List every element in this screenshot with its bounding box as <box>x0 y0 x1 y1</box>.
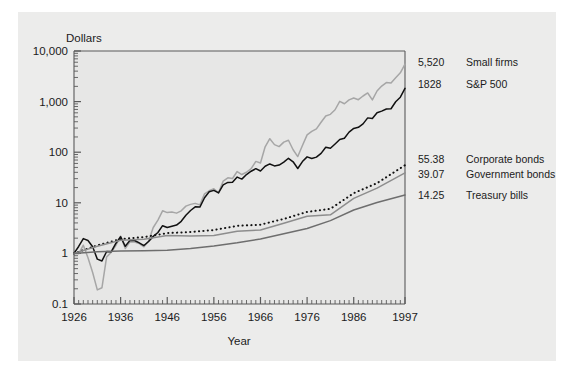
x-tick-label: 1966 <box>248 311 274 323</box>
y-tick-label: 10 <box>55 197 68 209</box>
legend: 5,520Small firms1828S&P 50055.38Corporat… <box>418 56 555 201</box>
x-axis-tick-labels: 19261936194619561966197619861997 <box>61 311 418 323</box>
x-tick-label: 1956 <box>201 311 227 323</box>
y-tick-label: 10,000 <box>33 45 68 57</box>
legend-value: 55.38 <box>418 153 444 165</box>
x-tick-label: 1946 <box>154 311 180 323</box>
chart-stage: 10,0001,0001001010.1 1926193619461956196… <box>0 0 576 374</box>
y-axis-title: Dollars <box>66 32 102 44</box>
x-tick-label: 1926 <box>61 311 87 323</box>
x-tick-label: 1936 <box>108 311 134 323</box>
x-tick-label: 1976 <box>294 311 320 323</box>
y-tick-label: 1 <box>62 247 68 259</box>
legend-label: Treasury bills <box>466 189 528 201</box>
legend-label: S&P 500 <box>466 78 507 90</box>
y-tick-label: 100 <box>49 146 68 158</box>
legend-value: 1828 <box>418 78 442 90</box>
legend-value: 14.25 <box>418 189 444 201</box>
y-axis-tick-labels: 10,0001,0001001010.1 <box>33 45 68 310</box>
y-tick-label: 0.1 <box>52 298 68 310</box>
chart-svg: 10,0001,0001001010.1 1926193619461956196… <box>0 0 576 374</box>
x-tick-label: 1997 <box>392 311 418 323</box>
legend-label: Government bonds <box>466 168 555 180</box>
legend-value: 39.07 <box>418 168 444 180</box>
legend-value: 5,520 <box>418 56 444 68</box>
legend-label: Small firms <box>466 56 518 68</box>
y-tick-label: 1,000 <box>39 96 68 108</box>
x-axis-title: Year <box>227 335 250 347</box>
x-tick-label: 1986 <box>341 311 367 323</box>
legend-label: Corporate bonds <box>466 153 544 165</box>
